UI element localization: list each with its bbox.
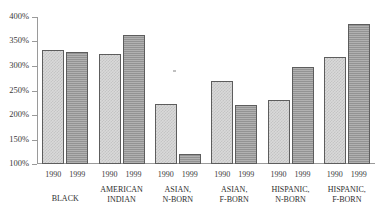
plot-area <box>37 17 375 164</box>
y-axis-tick-label: 150% <box>0 135 29 144</box>
bar-chart: 400%350%300%250%200%150%100% 19901999199… <box>0 0 381 215</box>
x-axis-year-label: 1999 <box>175 170 205 179</box>
x-axis-year-label: 1999 <box>119 170 149 179</box>
bar-asian-n-born-1990 <box>155 104 177 164</box>
bar-american-indian-1999 <box>123 35 145 164</box>
bar-black-1999 <box>66 52 88 164</box>
bar-asian-n-born-1999 <box>179 154 201 164</box>
x-axis-group-label-line: HISPANIC, <box>311 185 381 195</box>
x-axis-group-label: HISPANIC,F-BORN <box>311 185 381 204</box>
y-axis-tick <box>32 164 37 165</box>
y-axis-tick-label: 350% <box>0 36 29 45</box>
bar-asian-f-born-1990 <box>211 81 233 164</box>
bar-black-1990 <box>42 50 64 164</box>
chart-title <box>0 0 381 3</box>
bar-hispanic-n-born-1999 <box>292 67 314 164</box>
y-axis-tick-label: 200% <box>0 110 29 119</box>
bar-hispanic-n-born-1990 <box>268 100 290 164</box>
y-axis-tick-label: 400% <box>0 12 29 21</box>
x-axis-year-label: 1999 <box>231 170 261 179</box>
bar-american-indian-1990 <box>99 54 121 164</box>
bar-hispanic-f-born-1990 <box>324 57 346 164</box>
x-axis-group-label-line: F-BORN <box>311 195 381 205</box>
y-axis-tick-label: 100% <box>0 159 29 168</box>
y-axis-tick-label: 300% <box>0 61 29 70</box>
stray-artifact-dot <box>173 70 176 72</box>
x-axis-year-label: 1999 <box>288 170 318 179</box>
bar-asian-f-born-1999 <box>235 105 257 164</box>
y-axis-tick-label: 250% <box>0 86 29 95</box>
bar-hispanic-f-born-1999 <box>348 24 370 164</box>
x-axis-year-label: 1999 <box>62 170 92 179</box>
x-axis-year-label: 1999 <box>344 170 374 179</box>
